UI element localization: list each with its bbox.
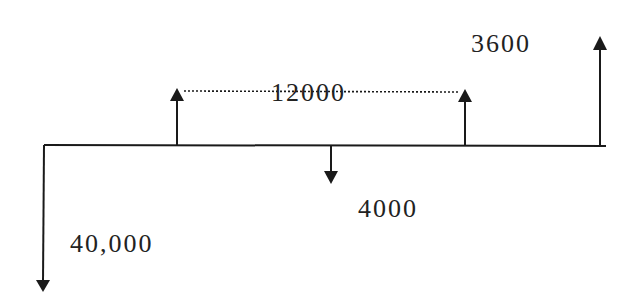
arrow-up-icon — [458, 89, 472, 102]
time-axis — [44, 145, 606, 146]
arrow-up-icon — [593, 36, 607, 50]
arrow-down-icon — [36, 280, 50, 292]
label-outflow: 4000 — [358, 196, 418, 222]
label-initial-investment: 40,000 — [70, 231, 154, 257]
arrow-up-icon — [170, 88, 184, 101]
cash-flow-diagram — [0, 0, 640, 306]
label-uniform-series: 12000 — [271, 80, 346, 106]
arrow-initial-shaft — [43, 145, 44, 282]
label-final-value: 3600 — [471, 31, 531, 57]
arrow-down-icon — [324, 171, 338, 184]
